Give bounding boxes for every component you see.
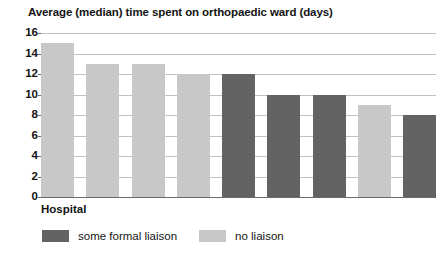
chart-legend: some formal liaisonno liaison	[42, 228, 306, 244]
y-axis-tick-label: 14	[4, 48, 38, 60]
bar-4	[177, 74, 210, 197]
y-axis-tick-label: 12	[4, 68, 38, 80]
legend-item-1: some formal liaison	[42, 230, 177, 242]
y-axis-tick-label: 4	[4, 150, 38, 162]
y-axis-tick-label: 10	[4, 89, 38, 101]
legend-label: some formal liaison	[78, 230, 177, 242]
y-axis-tick-label: 2	[4, 171, 38, 183]
bar-7	[313, 95, 346, 198]
bar-8	[358, 105, 391, 197]
legend-swatch-icon	[42, 230, 69, 242]
x-axis-title: Hospital	[41, 203, 86, 215]
bar-5	[222, 74, 255, 197]
x-axis-baseline	[41, 197, 436, 198]
bar-9	[403, 115, 436, 197]
bar-1	[41, 43, 74, 197]
bars-layer	[41, 33, 436, 197]
bar-chart: Average (median) time spent on orthopaed…	[0, 0, 447, 253]
y-axis: 1614121086420	[0, 33, 38, 197]
legend-item-2: no liaison	[199, 230, 284, 242]
y-axis-tick-label: 6	[4, 130, 38, 142]
chart-title: Average (median) time spent on orthopaed…	[28, 6, 333, 18]
bar-3	[132, 64, 165, 197]
y-axis-tick-label: 0	[4, 191, 38, 203]
legend-swatch-icon	[199, 230, 226, 242]
y-axis-tick-label: 8	[4, 109, 38, 121]
bar-6	[267, 95, 300, 198]
y-axis-tick-label: 16	[4, 27, 38, 39]
legend-label: no liaison	[235, 230, 284, 242]
bar-2	[86, 64, 119, 197]
